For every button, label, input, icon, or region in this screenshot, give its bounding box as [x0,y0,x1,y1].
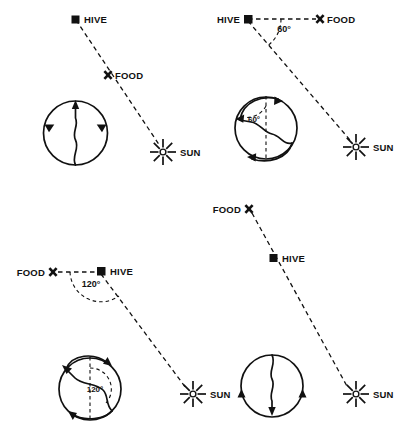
hive-sun-line [248,21,350,140]
hive-food-sun-line [252,213,348,388]
dance-diagram-60: 60° [235,96,297,161]
food-marker [49,268,56,276]
food-label: FOOD [115,70,143,81]
hive-label: HIVE [84,14,107,25]
upper-loop-arrowhead [274,97,283,105]
waggle-dance-figure: HIVE FOOD SUN [0,0,412,432]
food-label: FOOD [17,267,45,278]
figure-canvas: HIVE FOOD SUN [0,0,412,432]
hive-food-sun-line [76,20,160,146]
sun-label: SUN [180,147,201,158]
left-loop-arrowhead [45,125,55,133]
hive-label: HIVE [217,14,240,25]
field-angle-label: 60° [277,24,291,34]
panel-bottom-left: 120° FOOD HIVE SUN [17,266,231,421]
field-angle-label: 120° [82,279,101,289]
panel-top-right: 60° HIVE FOOD SUN [217,14,394,162]
sun-marker [343,381,369,407]
lower-return-loop [72,411,112,419]
dance-angle-label: 120° [87,385,104,394]
hive-marker [97,267,106,276]
hive-label: HIVE [110,266,133,277]
hive-marker [270,254,278,262]
dance-angle-label: 60° [248,115,260,124]
sun-label: SUN [373,389,394,400]
right-loop-arrowhead [97,125,107,133]
hive-label: HIVE [282,253,305,264]
sun-marker [343,134,369,160]
hive-sun-line [101,274,186,388]
sun-marker [180,381,206,407]
hive-marker [244,15,253,24]
food-marker [316,15,323,23]
food-marker [245,205,252,213]
panel-bottom-right: FOOD HIVE SUN [213,204,394,418]
waggle-run [271,355,273,412]
dance-diagram-down [238,355,307,417]
dance-diagram-up [44,100,108,165]
hive-marker [72,16,80,24]
sun-label: SUN [373,142,394,153]
sun-label: SUN [210,389,231,400]
waggle-arrowhead [268,407,275,416]
food-label: FOOD [213,204,241,215]
waggle-run [74,104,77,165]
food-label: FOOD [327,14,355,25]
sun-marker [150,139,176,165]
food-marker [104,71,111,79]
panel-top-left: HIVE FOOD SUN [44,14,201,165]
right-loop-arrowhead [299,389,307,398]
dance-diagram-120: 120° [59,356,121,421]
left-loop-arrowhead [238,389,246,398]
